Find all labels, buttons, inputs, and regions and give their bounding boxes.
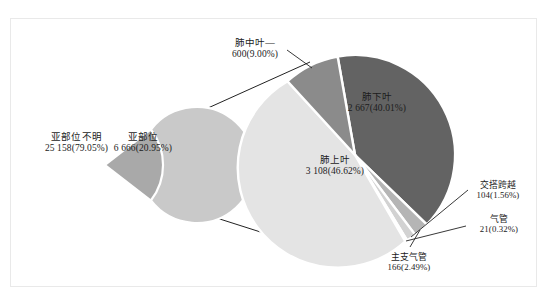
label-overlapping-value: 104(1.56%) xyxy=(460,190,536,200)
chart-figure: 亚部位不明 25 158(79.05%) 亚部位 6 666(20.95%) 肺… xyxy=(0,0,548,306)
label-lower-lobe-value: 2 667(40.01%) xyxy=(327,103,427,114)
label-middle-lobe: 肺中叶— 600(9.00%) xyxy=(213,38,297,60)
label-upper-lobe-value: 3 108(46.62%) xyxy=(285,166,385,177)
label-main-bronchus: 主支气管 166(2.49%) xyxy=(367,252,451,273)
label-lower-lobe: 肺下叶 2 667(40.01%) xyxy=(327,92,427,114)
label-main-bronchus-value: 166(2.49%) xyxy=(367,262,451,272)
label-overlapping: 交搭跨越 104(1.56%) xyxy=(460,180,536,201)
label-subsite-known: 亚部位 6 666(20.95%) xyxy=(97,132,189,154)
label-trachea-name: 气管 xyxy=(466,214,532,224)
label-lower-lobe-name: 肺下叶 xyxy=(327,92,427,103)
label-trachea-value: 21(0.32%) xyxy=(466,224,532,234)
label-subsite-known-value: 6 666(20.95%) xyxy=(97,143,189,154)
label-main-bronchus-name: 主支气管 xyxy=(367,252,451,262)
label-middle-lobe-name: 肺中叶— xyxy=(213,38,297,49)
label-trachea: 气管 21(0.32%) xyxy=(466,214,532,235)
label-upper-lobe-name: 肺上叶 xyxy=(285,155,385,166)
label-overlapping-name: 交搭跨越 xyxy=(460,180,536,190)
overview-pie-slices xyxy=(105,107,255,223)
label-middle-lobe-value: 600(9.00%) xyxy=(213,49,297,60)
label-subsite-known-name: 亚部位 xyxy=(97,132,189,143)
label-upper-lobe: 肺上叶 3 108(46.62%) xyxy=(285,155,385,177)
